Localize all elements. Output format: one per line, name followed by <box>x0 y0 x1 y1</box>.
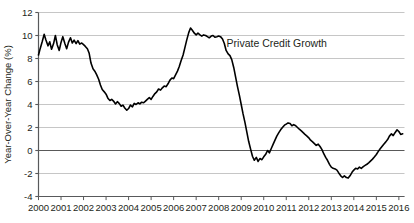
x-tick-label: 2003 <box>95 202 116 213</box>
x-tick-label: 2011 <box>276 202 296 213</box>
x-axis <box>39 197 405 201</box>
chart-container: -4-2024681012 20002001200220032004200520… <box>0 0 414 223</box>
x-tick-label: 2007 <box>186 202 207 213</box>
x-tick-label: 2000 <box>28 202 49 213</box>
y-tick-label: 8 <box>27 53 32 64</box>
y-axis-title-text: Year-Over-Year Change (%) <box>2 45 13 164</box>
y-tick-label: 10 <box>22 30 33 41</box>
y-tick-label: 2 <box>27 122 32 133</box>
y-tick-label: 0 <box>27 145 32 156</box>
y-axis <box>35 13 38 197</box>
y-axis-title: Year-Over-Year Change (%) <box>2 45 13 164</box>
grid-lines <box>39 13 405 197</box>
y-tick-labels: -4-2024681012 <box>22 7 33 202</box>
data-series-private-credit-growth <box>39 28 403 178</box>
x-tick-label: 2015 <box>366 202 387 213</box>
x-tick-label: 2010 <box>253 202 274 213</box>
y-tick-label: 4 <box>27 99 32 110</box>
y-tick-label: 12 <box>22 7 33 18</box>
x-tick-label: 2014 <box>343 202 364 213</box>
line-chart: -4-2024681012 20002001200220032004200520… <box>0 0 414 223</box>
x-tick-label: 2001 <box>50 202 71 213</box>
series-line <box>39 28 403 178</box>
x-tick-label: 2012 <box>298 202 319 213</box>
x-tick-label: 2013 <box>321 202 342 213</box>
series-annotation-label: Private Credit Growth <box>227 37 328 49</box>
y-tick-label: -2 <box>24 168 32 179</box>
x-tick-labels: 2000200120022003200420052006200720082009… <box>28 202 410 213</box>
x-tick-label: 2016 <box>388 202 409 213</box>
x-tick-label: 2009 <box>231 202 252 213</box>
x-tick-label: 2004 <box>118 202 139 213</box>
x-tick-label: 2002 <box>73 202 94 213</box>
x-tick-label: 2008 <box>208 202 229 213</box>
y-tick-label: -4 <box>24 191 32 202</box>
x-tick-label: 2006 <box>163 202 184 213</box>
chart-annotations: Private Credit Growth <box>227 37 328 49</box>
x-tick-label: 2005 <box>141 202 162 213</box>
y-tick-label: 6 <box>27 76 32 87</box>
